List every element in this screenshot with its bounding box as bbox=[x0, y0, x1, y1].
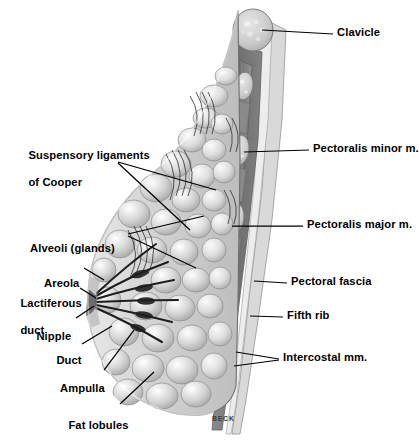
label-line-2: of Cooper bbox=[28, 176, 82, 188]
label-pectoralis-minor-m: Pectoralis minor m. bbox=[313, 142, 419, 155]
label-pectoral-fascia: Pectoral fascia bbox=[291, 275, 371, 288]
artist-signature: BECK bbox=[212, 415, 235, 422]
label-fat-lobules: Fat lobules bbox=[62, 406, 129, 433]
label-line-1: Lactiferous bbox=[20, 297, 81, 309]
label-pectoralis-major-m: Pectoralis major m. bbox=[307, 218, 412, 231]
label-nipple: Nipple bbox=[30, 317, 71, 344]
label-clavicle: Clavicle bbox=[337, 26, 380, 39]
label-suspensory-ligaments-of-cooper: Suspensory ligaments of Cooper bbox=[22, 136, 150, 190]
label-line-1: Ampulla bbox=[60, 382, 105, 394]
label-line-1: Duct bbox=[56, 354, 81, 366]
label-line-1: Alveoli (glands) bbox=[30, 242, 115, 254]
label-fifth-rib: Fifth rib bbox=[287, 309, 330, 322]
label-alveoli-glands: Alveoli (glands) bbox=[24, 229, 115, 256]
label-duct: Duct bbox=[50, 341, 82, 368]
label-intercostal-mm: Intercostal mm. bbox=[283, 351, 367, 364]
label-line-1: Suspensory ligaments bbox=[28, 149, 149, 161]
label-ampulla: Ampulla bbox=[54, 369, 105, 396]
label-line-1: Fat lobules bbox=[68, 419, 128, 431]
